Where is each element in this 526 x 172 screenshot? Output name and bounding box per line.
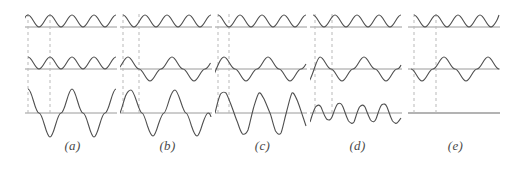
panel-b bbox=[120, 0, 215, 140]
caption-b: (b) bbox=[120, 138, 215, 154]
panel-c bbox=[215, 0, 310, 140]
panel-b-plot bbox=[120, 0, 215, 140]
caption-e: (e) bbox=[408, 138, 503, 154]
panel-d bbox=[310, 0, 405, 140]
panel-e bbox=[408, 0, 503, 140]
interference-figure: (a) (b) (c) (d) (e) bbox=[0, 0, 526, 172]
caption-d: (d) bbox=[310, 138, 405, 154]
panel-a bbox=[25, 0, 120, 140]
panel-e-plot bbox=[408, 0, 503, 140]
wave-1-curve bbox=[313, 15, 401, 27]
wave-1-curve bbox=[414, 15, 499, 27]
wave-1-curve bbox=[123, 15, 211, 27]
wave-1-curve bbox=[28, 15, 116, 27]
wave-2-curve bbox=[28, 57, 116, 69]
panel-a-plot bbox=[25, 0, 120, 140]
wave-1-curve bbox=[218, 15, 306, 27]
panel-c-plot bbox=[215, 0, 310, 140]
caption-a: (a) bbox=[25, 138, 120, 154]
caption-c: (c) bbox=[215, 138, 310, 154]
caption-row: (a) (b) (c) (d) (e) bbox=[0, 138, 526, 172]
panel-d-plot bbox=[310, 0, 405, 140]
